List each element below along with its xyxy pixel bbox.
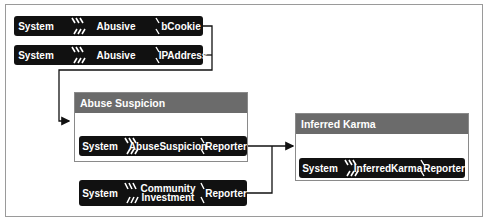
claim-block-bcookie: System Abusive bCookie (14, 16, 203, 36)
separator-claim-icon (70, 16, 86, 36)
claim-block-inferred-karma: System InferredKarma Reporter (299, 158, 465, 178)
context-label: System (79, 136, 121, 156)
group-title: Inferred Karma (296, 114, 468, 134)
separator-claim-icon (70, 45, 86, 65)
claim-label: AbuseSuspicion (137, 136, 199, 156)
claim-label: Community Investment (137, 180, 199, 206)
context-label: System (14, 45, 58, 65)
claim-label: Abusive (86, 45, 146, 65)
claim-label: Abusive (86, 16, 146, 36)
context-label: System (14, 16, 58, 36)
claim-block-community-investment: System Community Investment Reporter (79, 180, 247, 206)
target-label: Reporter (423, 158, 465, 178)
group-title: Abuse Suspicion (75, 93, 247, 113)
target-label: bCookie (159, 16, 203, 36)
context-label: System (299, 158, 341, 178)
connector-community-to-karma (247, 146, 272, 193)
target-label: Reporter (205, 180, 247, 206)
target-label: IPAddress (159, 45, 207, 65)
claim-label-line2: Investment (142, 193, 195, 202)
claim-block-ipaddress: System Abusive IPAddress (14, 45, 203, 65)
target-label: Reporter (205, 136, 247, 156)
context-label: System (79, 180, 121, 206)
claim-label: InferredKarma (357, 158, 419, 178)
claim-block-abuse-suspicion: System AbuseSuspicion Reporter (79, 136, 247, 156)
